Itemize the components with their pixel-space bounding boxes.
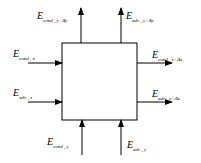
label-cond-top: Econd , y+Δy (37, 11, 67, 26)
energy-balance-diagram (0, 0, 201, 163)
label-cond-left: Econd , x (13, 49, 35, 64)
label-cond-bottom: Econd , y (47, 137, 69, 152)
label-adv-right: Eadv , x+Δx (152, 89, 180, 104)
label-cond-right: Econd , x+Δx (152, 50, 182, 65)
label-adv-left: Eadv , x (13, 88, 32, 103)
label-adv-top: Eadv , y+Δy (126, 11, 154, 26)
control-volume-box (62, 43, 137, 120)
label-adv-bottom: Eadv , y (127, 140, 146, 155)
